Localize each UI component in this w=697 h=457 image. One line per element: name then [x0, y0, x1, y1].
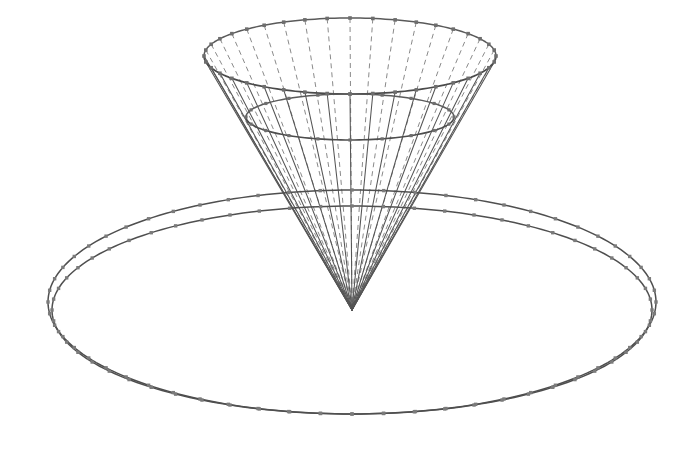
ring-outer-vertex	[73, 346, 76, 349]
cone-mid-vertex	[244, 115, 247, 118]
ring-outer-vertex	[46, 300, 49, 303]
ring-outer-vertex	[350, 188, 353, 191]
ring-inner-vertex	[644, 330, 647, 333]
ring-outer-vertex	[474, 198, 477, 201]
cone-generatrix-hidden	[352, 22, 416, 310]
ring-inner-vertex	[350, 204, 353, 207]
ring-outer-vertex	[319, 189, 322, 192]
ring-outer-vertex	[61, 266, 64, 269]
ring-inner-vertex	[319, 205, 322, 208]
ring-inner-vertex	[52, 319, 55, 322]
cone-rim-vertex	[494, 54, 498, 58]
cone-rim-vertex	[204, 60, 208, 64]
ring-inner-vertex	[500, 218, 503, 221]
cone-rim-vertex	[414, 20, 418, 24]
ring-inner-vertex	[382, 412, 385, 415]
cone-rim-vertex	[303, 18, 307, 22]
ring-outer-vertex	[172, 210, 175, 213]
ring-inner-vertex	[413, 410, 416, 413]
cone-mid-vertex	[264, 102, 267, 105]
ring-inner-vertex	[644, 287, 647, 290]
cone-mid-vertex	[264, 129, 267, 132]
ring-outer-vertex	[147, 217, 150, 220]
ring-outer-vertex	[444, 194, 447, 197]
ring-inner-vertex	[258, 407, 261, 410]
cone-generatrix-hidden	[305, 20, 352, 310]
cone-rim-vertex	[393, 18, 397, 22]
cone-mid-vertex	[348, 138, 351, 141]
ring-inner-vertex	[319, 412, 322, 415]
ring-inner-vertex	[65, 340, 68, 343]
cone-generatrix	[247, 83, 352, 310]
cone-generatrix-hidden	[352, 29, 453, 310]
ring-outer-vertex	[256, 194, 259, 197]
ring-outer-vertex	[596, 234, 599, 237]
cone-rim-vertex	[202, 54, 206, 58]
cone-mid-vertex	[433, 102, 436, 105]
cone-rim-vertex	[451, 81, 455, 85]
ring-inner-vertex	[50, 308, 53, 311]
cone-mid-vertex	[447, 108, 450, 111]
cone-mid-vertex	[452, 115, 455, 118]
ring-inner-vertex	[382, 205, 385, 208]
ring-inner-vertex	[52, 297, 55, 300]
ring-outer-vertex	[614, 356, 617, 359]
cone-rim-vertex	[487, 66, 491, 70]
cone-rim-vertex	[325, 92, 329, 96]
cone-generatrix	[232, 78, 352, 310]
cone-rim-vertex	[492, 60, 496, 64]
cone-rim-vertex	[414, 88, 418, 92]
cone-mid-vertex	[287, 97, 290, 100]
ring-outer-vertex	[87, 244, 90, 247]
cone-rim-vertex	[325, 17, 329, 21]
cone-mid-vertex	[249, 108, 252, 111]
ring-inner-vertex	[593, 247, 596, 250]
ring-inner-vertex	[573, 239, 576, 242]
ring-inner-vertex	[200, 218, 203, 221]
ring-inner-vertex	[228, 403, 231, 406]
ring-inner-vertex	[288, 410, 291, 413]
ring-outer-vertex	[639, 266, 642, 269]
ring-outer-vertex	[576, 375, 579, 378]
cone-rim-vertex	[303, 90, 307, 94]
ring-inner-vertex	[573, 378, 576, 381]
cone-mid-vertex	[316, 94, 319, 97]
cone-rim-vertex	[451, 27, 455, 31]
cone-mid-vertex	[249, 123, 252, 126]
cone-generatrix-hidden	[352, 34, 468, 310]
ring-outer-vertex	[628, 346, 631, 349]
ring-inner-vertex	[288, 207, 291, 210]
ring-inner-vertex	[624, 351, 627, 354]
ring-inner-vertex	[593, 369, 596, 372]
ring-outer-vertex	[502, 203, 505, 206]
ring-inner-vertex	[108, 247, 111, 250]
ring-inner-vertex	[150, 231, 153, 234]
ring-inner-vertex	[174, 224, 177, 227]
cone-rim-vertex	[478, 71, 482, 75]
ring-outer-vertex	[596, 366, 599, 369]
ring-inner-vertex	[649, 297, 652, 300]
cone-rim-vertex	[348, 16, 352, 20]
ring-inner-vertex	[174, 392, 177, 395]
ring-inner-vertex	[443, 407, 446, 410]
cone-generatrix	[305, 92, 352, 310]
cone-generatrix-hidden	[352, 39, 480, 310]
cone-rim-vertex	[204, 48, 208, 52]
ring-outer-vertex	[639, 335, 642, 338]
ring-outer-vertex	[104, 366, 107, 369]
ring-inner-vertex	[76, 351, 79, 354]
ring-inner-vertex	[610, 256, 613, 259]
cone-rim-vertex	[282, 20, 286, 24]
ring-outer-vertex	[227, 198, 230, 201]
cone-rim-vertex	[371, 92, 375, 96]
cone-mid-vertex	[316, 137, 319, 140]
ring-inner-vertex	[610, 360, 613, 363]
ring-outer-vertex	[124, 375, 127, 378]
ring-inner-vertex	[90, 256, 93, 259]
ring-outer-vertex	[653, 312, 656, 315]
ring-inner-vertex	[57, 330, 60, 333]
cone-generatrix-hidden	[220, 39, 352, 310]
ring-outer-vertex	[614, 244, 617, 247]
cone-rim-vertex	[434, 85, 438, 89]
ring-inner-vertex	[649, 319, 652, 322]
